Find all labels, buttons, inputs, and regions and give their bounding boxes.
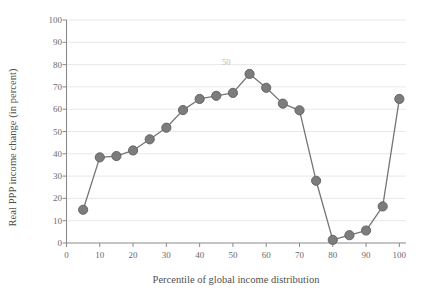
data-point xyxy=(278,99,287,108)
axis-tick-marks xyxy=(63,20,400,247)
data-point xyxy=(245,69,254,78)
gridlines xyxy=(67,20,407,221)
y-tick-label: 0 xyxy=(36,239,62,248)
y-axis-tick-labels: 0102030405060708090100 xyxy=(36,0,62,295)
y-tick-label: 20 xyxy=(36,194,62,203)
y-tick-label: 40 xyxy=(36,149,62,158)
data-point xyxy=(295,106,304,115)
x-tick-label: 20 xyxy=(129,251,138,260)
data-line xyxy=(83,74,399,240)
data-point xyxy=(328,235,337,244)
data-point xyxy=(162,123,171,132)
y-tick-label: 10 xyxy=(36,216,62,225)
x-tick-label: 10 xyxy=(95,251,104,260)
y-tick-label: 50 xyxy=(36,127,62,136)
y-tick-label: 100 xyxy=(36,16,62,25)
data-point xyxy=(95,153,104,162)
data-point xyxy=(195,94,204,103)
data-point xyxy=(395,94,404,103)
y-axis-title: Real PPP income change (in percent) xyxy=(0,0,24,295)
data-point xyxy=(145,135,154,144)
data-point xyxy=(212,91,221,100)
chart-container: Real PPP income change (in percent) 0102… xyxy=(0,0,423,295)
data-annotation: 50 xyxy=(222,57,231,67)
data-point xyxy=(361,226,370,235)
x-tick-label: 70 xyxy=(295,251,304,260)
x-tick-label: 60 xyxy=(262,251,271,260)
x-tick-label: 50 xyxy=(228,251,237,260)
data-point xyxy=(262,83,271,92)
data-point xyxy=(178,105,187,114)
data-point xyxy=(128,146,137,155)
x-tick-label: 40 xyxy=(195,251,204,260)
data-point xyxy=(112,151,121,160)
y-tick-label: 70 xyxy=(36,82,62,91)
data-point xyxy=(79,205,88,214)
data-point xyxy=(378,202,387,211)
series-line xyxy=(83,74,399,240)
y-tick-label: 60 xyxy=(36,105,62,114)
x-tick-label: 0 xyxy=(64,251,69,260)
y-tick-label: 90 xyxy=(36,38,62,47)
x-tick-label: 80 xyxy=(328,251,337,260)
x-axis-title: Percentile of global income distribution xyxy=(66,274,406,285)
x-tick-label: 100 xyxy=(393,251,407,260)
x-tick-label: 90 xyxy=(362,251,371,260)
data-point xyxy=(228,88,237,97)
series-markers xyxy=(79,69,404,244)
x-tick-label: 30 xyxy=(162,251,171,260)
y-tick-label: 80 xyxy=(36,60,62,69)
y-tick-label: 30 xyxy=(36,172,62,181)
data-point xyxy=(312,176,321,185)
data-point xyxy=(345,231,354,240)
